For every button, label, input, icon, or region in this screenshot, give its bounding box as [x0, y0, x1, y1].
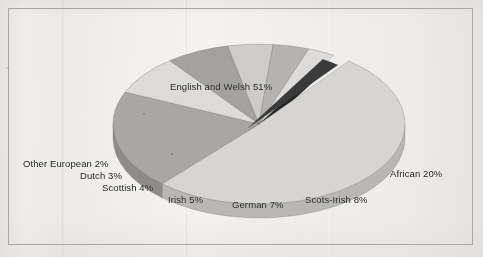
slice-label-english-and-welsh: English and Welsh 51%	[170, 81, 272, 92]
slice-label-dutch: Dutch 3%	[80, 170, 122, 181]
slice-label-other-european: Other European 2%	[23, 158, 109, 169]
slice-label-african: African 20%	[390, 168, 442, 179]
pie-chart-svg	[0, 0, 483, 257]
pie-chart[interactable]	[0, 0, 483, 257]
slice-label-scottish: Scottish 4%	[102, 182, 153, 193]
pie-slices-group	[113, 44, 405, 218]
slice-label-irish: Irish 5%	[168, 194, 203, 205]
slice-label-german: German 7%	[232, 199, 284, 210]
slice-label-scots-irish: Scots-Irish 8%	[305, 194, 368, 205]
